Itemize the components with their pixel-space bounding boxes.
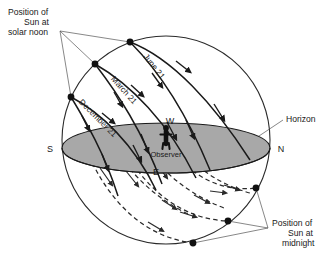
marker-midnight-december-21 — [190, 240, 197, 247]
solar-noon-callout-line2: Sun at — [24, 17, 49, 27]
marker-midnight-march-21 — [225, 218, 232, 225]
horizon-label: Horizon — [286, 114, 316, 124]
midnight-callout-line1: Position of — [272, 218, 313, 228]
marker-noon-june-21 — [127, 39, 134, 46]
solar-noon-callout-line1: Position of — [8, 7, 49, 17]
marker-midnight-june-21 — [253, 185, 260, 192]
marker-noon-march-21 — [92, 61, 99, 68]
cardinal-label-south: S — [47, 144, 53, 154]
midnight-callout-line3: midnight — [282, 238, 315, 248]
observer-label: Observer — [150, 150, 182, 159]
solar-noon-callout-line3: solar noon — [8, 27, 48, 37]
diagram-canvas: Position of Sun at solar noon Position o… — [0, 0, 331, 268]
cardinal-label-east: E — [153, 167, 159, 177]
celestial-sphere-diagram: Position of Sun at solar noon Position o… — [0, 0, 331, 268]
marker-noon-december-21 — [68, 94, 75, 101]
midnight-callout-line2: Sun at — [288, 228, 313, 238]
cardinal-label-north: N — [278, 144, 285, 154]
midnight-leader-lines — [193, 188, 268, 243]
cardinal-label-west: W — [166, 116, 175, 126]
